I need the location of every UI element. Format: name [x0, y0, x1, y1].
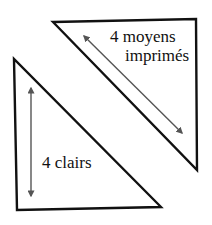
lower-left-triangle	[14, 59, 161, 210]
lower-triangle-label: 4 clairs	[42, 154, 92, 172]
upper-triangle-label-line1: 4 moyens	[110, 28, 176, 46]
diagram-canvas	[0, 0, 212, 225]
upper-triangle-label-line2: imprimés	[125, 47, 189, 65]
